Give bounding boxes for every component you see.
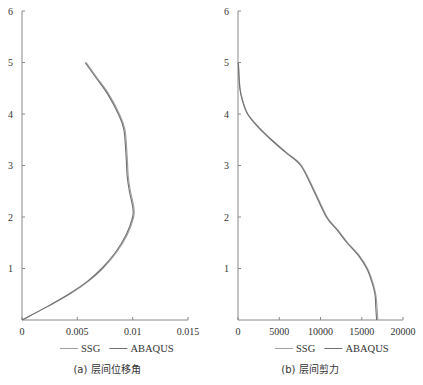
legend-label-abaqus: ABAQUS	[130, 343, 173, 354]
chart-figure: 12345600.0050.010.015SSGABAQUS(a) 层间位移角 …	[0, 0, 423, 385]
x-tick-label: 10000	[308, 326, 333, 337]
x-tick-label: 20000	[391, 326, 416, 337]
x-tick-label: 0	[236, 326, 241, 337]
chart-caption: (a) 层间位移角	[73, 363, 140, 375]
y-tick-label: 4	[224, 109, 229, 120]
chart-panel-b: 12345605000100001500020000SSGABAQUS(b) 层…	[224, 6, 416, 376]
x-tick-label: 15000	[349, 326, 374, 337]
x-tick-label: 0.015	[177, 326, 200, 337]
y-tick-label: 1	[224, 263, 229, 274]
y-tick-label: 3	[224, 160, 229, 171]
y-tick-label: 6	[8, 6, 13, 17]
legend-label-ssg: SSG	[81, 343, 101, 354]
legend-label-ssg: SSG	[296, 343, 316, 354]
y-tick-label: 5	[8, 57, 13, 68]
x-tick-label: 0.005	[66, 326, 89, 337]
y-tick-label: 6	[224, 6, 229, 17]
y-tick-label: 4	[8, 109, 13, 120]
series-line-abaqus	[238, 63, 376, 321]
series-line-abaqus	[22, 63, 133, 321]
x-tick-label: 0.01	[124, 326, 142, 337]
y-tick-label: 5	[224, 57, 229, 68]
legend-label-abaqus: ABAQUS	[345, 343, 388, 354]
chart-caption: (b) 层间剪力	[281, 363, 338, 375]
series-line-ssg	[22, 63, 134, 321]
y-tick-label: 1	[8, 263, 13, 274]
series-line-ssg	[238, 63, 377, 321]
y-tick-label: 3	[8, 160, 13, 171]
x-tick-label: 5000	[269, 326, 289, 337]
y-tick-label: 2	[224, 212, 229, 223]
x-tick-label: 0	[20, 326, 25, 337]
chart-panel-a: 12345600.0050.010.015SSGABAQUS(a) 层间位移角	[8, 6, 199, 376]
y-tick-label: 2	[8, 212, 13, 223]
